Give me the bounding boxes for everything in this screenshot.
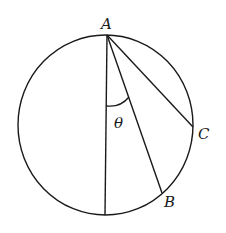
diameter-line [105, 35, 107, 215]
angle-arc [107, 97, 129, 106]
point-label-b: B [163, 193, 175, 211]
angle-label-theta: θ [114, 114, 123, 132]
point-label-a: A [99, 15, 112, 33]
circle-diagram: A C B θ [0, 0, 226, 233]
point-label-c: C [198, 125, 210, 143]
